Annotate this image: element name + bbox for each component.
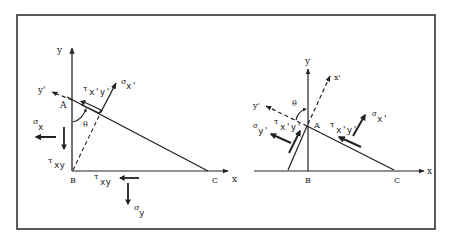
right-theta-arc xyxy=(296,109,306,120)
right-theta-label: θ xyxy=(292,99,297,108)
left-tau-xy-label: τ xyxy=(48,156,53,165)
stress-transformation-diagram: y y' σ x' τ x'y' A θ σ x τ xy B C xyxy=(0,0,450,240)
left-point-c: C xyxy=(212,176,218,185)
left-tau-xy-bottom-label: τ xyxy=(94,172,99,181)
right-point-c: C xyxy=(394,176,400,185)
right-tau-xy-prime-left-sub: x'y' xyxy=(280,122,302,132)
left-point-b: B xyxy=(70,176,76,185)
right-tau-xy-prime-right-arrow xyxy=(339,137,361,147)
left-y-prime-label: y' xyxy=(37,85,46,95)
right-x-prime-axis xyxy=(308,76,330,124)
left-sigma-x-prime-sub: x' xyxy=(126,81,137,91)
left-tau-xy-sub: xy xyxy=(54,160,65,170)
left-tau-xy-prime-label: τ xyxy=(83,84,88,93)
left-sigma-y-sub: y xyxy=(139,208,145,218)
right-point-a: A xyxy=(313,121,320,130)
right-x-prime-label: x' xyxy=(334,73,341,82)
right-sigma-y-prime-sub: y' xyxy=(258,126,269,136)
left-y-axis-label: y xyxy=(56,45,63,55)
left-tau-xy-bottom-sub: xy xyxy=(100,177,111,187)
left-x-axis-label: x xyxy=(232,174,237,184)
right-tau-xy-prime-left-label: τ xyxy=(274,117,279,126)
figure-frame xyxy=(17,15,435,229)
left-sigma-x-sub: x xyxy=(38,122,44,132)
right-point-b: B xyxy=(305,176,311,185)
right-panel: y x x' y' θ A σ y' τ x'y' τ x'y' σ x' xyxy=(252,56,432,185)
left-point-a: A xyxy=(59,100,67,110)
left-tau-xy-prime-sub: x'y' xyxy=(89,87,111,97)
right-tau-xy-prime-right-label: τ xyxy=(330,120,335,129)
left-y-prime-axis xyxy=(52,92,72,100)
left-theta-label: θ xyxy=(83,120,88,129)
right-x-axis-label: x xyxy=(427,166,432,176)
left-panel: y y' σ x' τ x'y' A θ σ x τ xy B C xyxy=(33,45,237,218)
right-y-axis-label: y xyxy=(304,56,311,66)
right-sigma-y-prime-arrow xyxy=(271,134,291,143)
right-y-prime-label: y' xyxy=(252,101,260,110)
right-sigma-x-prime-sub: x' xyxy=(377,114,388,124)
